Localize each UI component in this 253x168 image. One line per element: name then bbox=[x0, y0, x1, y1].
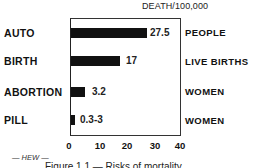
value-label-auto: 27.5 bbox=[150, 27, 169, 38]
denominator-auto: PEOPLE bbox=[185, 27, 226, 38]
value-label-pill: 0.3-3 bbox=[80, 114, 103, 125]
category-label-pill: PILL bbox=[4, 114, 28, 126]
source-label: — HEW — bbox=[12, 153, 49, 162]
figure-caption: Figure 1.1 — Risks of mortality bbox=[45, 161, 182, 168]
bar-pill bbox=[71, 115, 75, 125]
value-label-birth: 17 bbox=[126, 55, 137, 66]
category-label-birth: BIRTH bbox=[4, 55, 38, 67]
bar-abortion bbox=[71, 87, 85, 97]
x-tick-0: 0 bbox=[66, 140, 71, 151]
value-label-abortion: 3.2 bbox=[92, 86, 106, 97]
denominator-birth: LIVE BIRTHS bbox=[185, 56, 249, 67]
x-tick-10: 10 bbox=[95, 140, 106, 151]
denominator-pill: WOMEN bbox=[185, 115, 224, 126]
unit-label: DEATH/100,000 bbox=[142, 1, 208, 11]
x-tick-20: 20 bbox=[122, 140, 133, 151]
denominator-abortion: WOMEN bbox=[185, 86, 224, 97]
x-tick-30: 30 bbox=[150, 140, 161, 151]
bar-birth bbox=[71, 56, 120, 66]
category-label-auto: AUTO bbox=[4, 27, 35, 39]
category-label-abortion: ABORTION bbox=[4, 86, 62, 98]
bar-auto bbox=[71, 28, 147, 38]
x-tick-40: 40 bbox=[175, 140, 186, 151]
